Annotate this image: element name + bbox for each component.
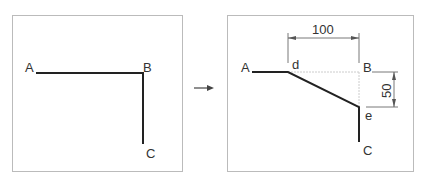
label-c: C: [363, 143, 372, 158]
dimension-100: 100: [312, 22, 334, 37]
diagram-canvas: A B C 100 50: [0, 0, 427, 181]
before-panel: A B C: [13, 16, 183, 172]
label-c: C: [146, 146, 155, 161]
after-panel: 100 50 A d B e C: [228, 16, 414, 172]
before-frame: [13, 16, 183, 172]
label-b: B: [363, 60, 372, 75]
right-arrow-icon: [194, 85, 214, 91]
label-e: e: [365, 108, 372, 123]
label-a: A: [25, 60, 34, 75]
label-b: B: [143, 60, 152, 75]
label-a: A: [241, 60, 250, 75]
label-d: d: [292, 57, 299, 72]
dimension-50: 50: [379, 84, 394, 98]
